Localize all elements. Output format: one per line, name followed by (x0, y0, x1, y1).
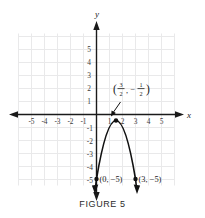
y-tick-2: 2 (87, 84, 91, 93)
y-tick-5: 5 (87, 45, 91, 54)
point-marker-vertex (114, 118, 118, 122)
y-tick--2: -2 (87, 137, 93, 146)
vertex-leader-line (113, 102, 121, 114)
y-axis-arrow-up (93, 21, 99, 30)
point-marker-3-neg5 (133, 177, 137, 181)
figure-caption: FIGURE 5 (0, 199, 205, 209)
point-label-0-neg5: (0, −5) (100, 175, 123, 184)
x-tick-3: 3 (134, 117, 138, 126)
y-axis-label: y (94, 9, 99, 19)
y-tick-4: 4 (87, 58, 91, 67)
x-tick-5: 5 (160, 117, 164, 126)
chart-axes (9, 21, 184, 201)
x-tick--4: -4 (41, 117, 47, 126)
parabola-right-arrow (134, 185, 140, 194)
annotation-open-paren: ( (113, 83, 117, 96)
y-tick-3: 3 (87, 71, 91, 80)
parabola-curve (97, 121, 136, 180)
annotation-minus-sign: − (131, 85, 136, 94)
annotation-frac1-numerator: 3 (119, 81, 122, 88)
annotation-comma: , (126, 86, 128, 95)
x-tick-4: 4 (147, 117, 151, 126)
figure-container: x y -5 -4 -3 -2 -1 1 2 3 4 5 5 4 3 2 1 -… (0, 0, 205, 218)
x-axis-arrow-left (9, 111, 18, 118)
x-axis-label: x (186, 110, 191, 120)
annotation-frac2-numerator: 1 (139, 81, 142, 88)
x-tick--2: -2 (67, 117, 73, 126)
annotation-frac1-denominator: 2 (119, 90, 122, 97)
y-tick--4: -4 (87, 163, 93, 172)
y-tick--5: -5 (87, 176, 93, 185)
x-tick--3: -3 (54, 117, 60, 126)
point-marker-0-neg5 (94, 177, 98, 181)
x-axis-arrow-right (175, 111, 184, 118)
annotation-frac2-denominator: 2 (139, 90, 142, 97)
y-tick-1: 1 (87, 97, 91, 106)
coordinate-plane-chart: x y -5 -4 -3 -2 -1 1 2 3 4 5 5 4 3 2 1 -… (0, 0, 205, 218)
annotation-close-paren: ) (146, 83, 150, 96)
y-tick--3: -3 (87, 150, 93, 159)
vertex-annotation: ( 3 2 , − 1 2 ) (113, 81, 150, 97)
point-label-3-neg5: (3, −5) (139, 175, 162, 184)
x-tick--5: -5 (28, 117, 34, 126)
y-tick--1: -1 (87, 124, 93, 133)
